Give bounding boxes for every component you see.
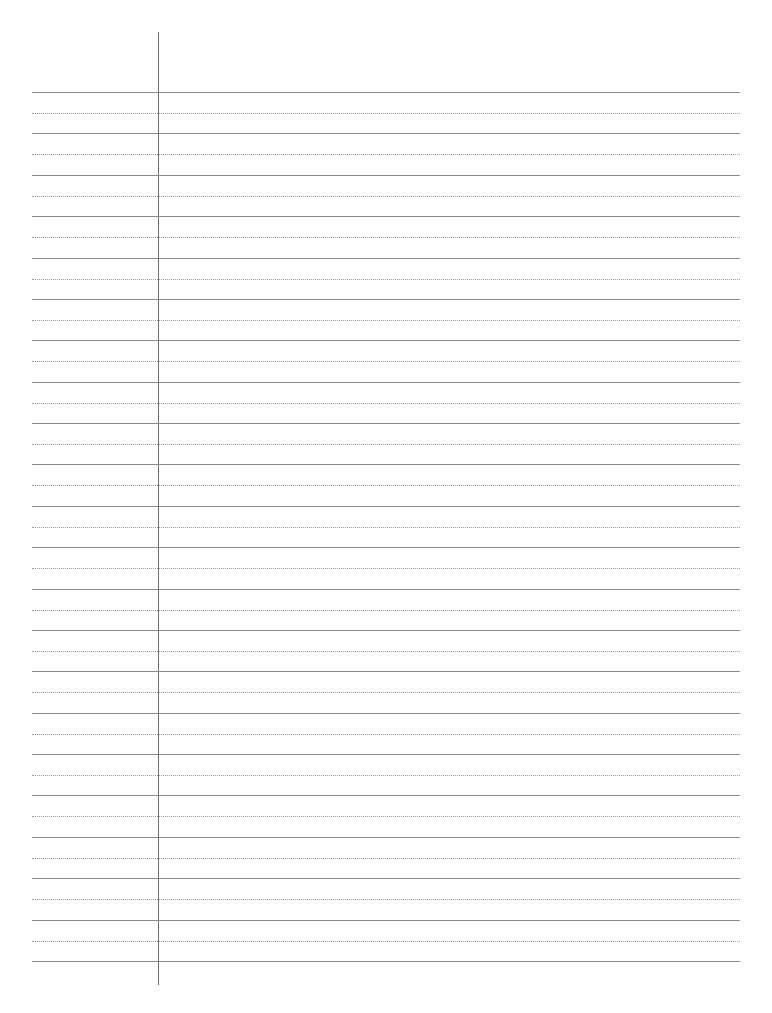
solid-rule-line	[32, 175, 740, 176]
lined-paper-sheet	[0, 0, 772, 1013]
solid-rule-line	[32, 464, 740, 465]
dotted-guide-line	[32, 858, 740, 859]
dotted-guide-line	[32, 816, 740, 817]
dotted-guide-line	[32, 403, 740, 404]
solid-rule-line	[32, 258, 740, 259]
dotted-guide-line	[32, 485, 740, 486]
solid-rule-line	[32, 630, 740, 631]
solid-rule-line	[32, 299, 740, 300]
dotted-guide-line	[32, 568, 740, 569]
dotted-guide-line	[32, 734, 740, 735]
dotted-guide-line	[32, 651, 740, 652]
solid-rule-line	[32, 837, 740, 838]
solid-rule-line	[32, 92, 740, 93]
dotted-guide-line	[32, 444, 740, 445]
dotted-guide-line	[32, 775, 740, 776]
solid-rule-line	[32, 216, 740, 217]
solid-rule-line	[32, 795, 740, 796]
solid-rule-line	[32, 382, 740, 383]
dotted-guide-line	[32, 196, 740, 197]
dotted-guide-line	[32, 237, 740, 238]
dotted-guide-line	[32, 320, 740, 321]
solid-rule-line	[32, 133, 740, 134]
dotted-guide-line	[32, 154, 740, 155]
dotted-guide-line	[32, 113, 740, 114]
solid-rule-line	[32, 713, 740, 714]
dotted-guide-line	[32, 899, 740, 900]
solid-rule-line	[32, 961, 740, 962]
solid-rule-line	[32, 754, 740, 755]
dotted-guide-line	[32, 941, 740, 942]
solid-rule-line	[32, 671, 740, 672]
dotted-guide-line	[32, 692, 740, 693]
solid-rule-line	[32, 547, 740, 548]
solid-rule-line	[32, 920, 740, 921]
solid-rule-line	[32, 506, 740, 507]
solid-rule-line	[32, 423, 740, 424]
solid-rule-line	[32, 340, 740, 341]
dotted-guide-line	[32, 279, 740, 280]
solid-rule-line	[32, 589, 740, 590]
solid-rule-line	[32, 878, 740, 879]
dotted-guide-line	[32, 527, 740, 528]
dotted-guide-line	[32, 361, 740, 362]
dotted-guide-line	[32, 610, 740, 611]
